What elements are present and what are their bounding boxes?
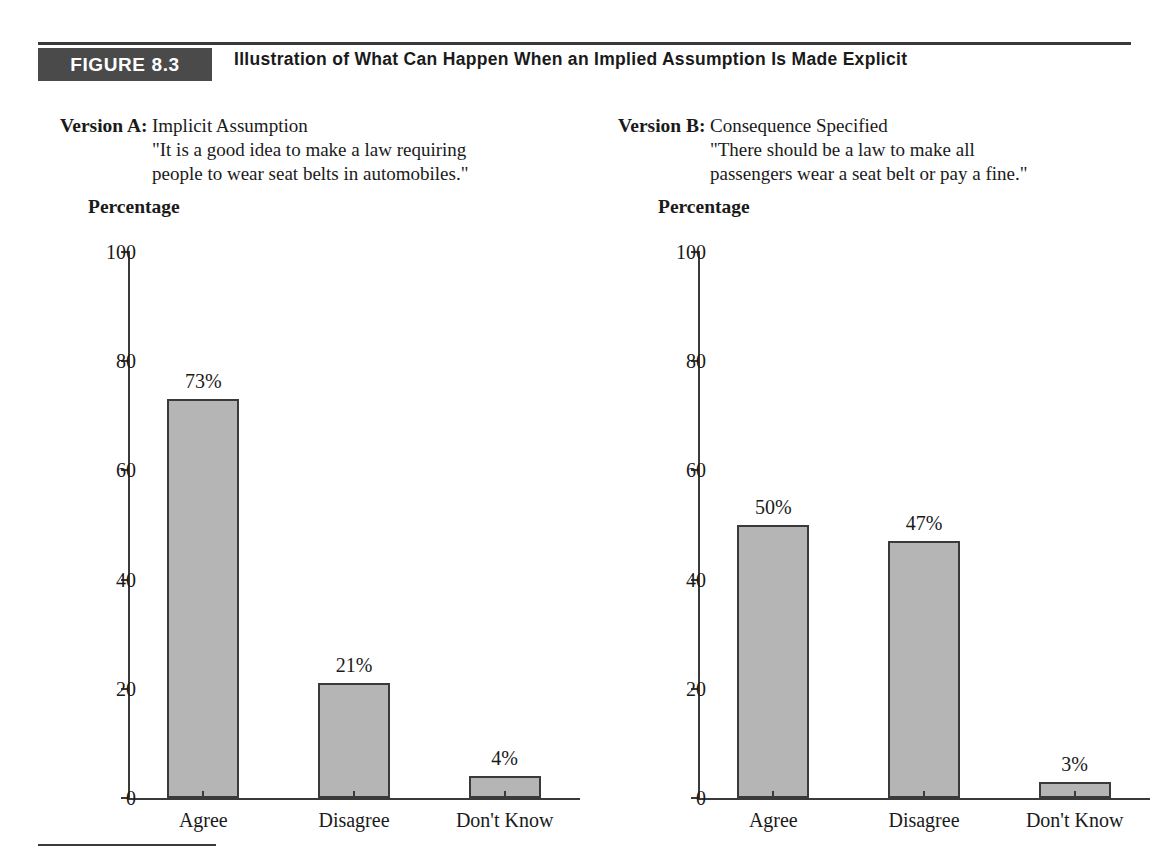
chart-b-bar-value-label: 3% [1025,754,1125,774]
chart-a-x-tick-mark [353,791,355,799]
version-a-heading-row: Version A:Implicit Assumption [60,114,560,138]
chart-b-y-tick-label: 80 [646,351,706,371]
chart-a-y-tick-label: 0 [76,788,136,808]
version-a-label: Version A: [60,114,152,138]
version-b-quote-line-1: "There should be a law to make all [710,138,1118,162]
chart-b-x-tick-mark [772,791,774,799]
chart-a-y-tick-label: 80 [76,351,136,371]
chart-b-y-tick-label: 100 [646,242,706,262]
chart-b-bar-value-label: 50% [723,497,823,517]
chart-b-y-tick-label: 20 [646,679,706,699]
footnote-divider [38,844,216,846]
chart-b-y-axis-title: Percentage [658,196,750,218]
chart-a-bar-value-label: 21% [304,655,404,675]
chart-a-bar [318,683,390,798]
chart-b-bar [737,525,809,798]
chart-b-bar [888,541,960,798]
chart-b-y-tick-label: 40 [646,570,706,590]
chart-a-y-tick-label: 60 [76,460,136,480]
chart-b-x-tick-label: Disagree [844,808,1004,832]
figure-number-badge: FIGURE 8.3 [38,48,212,81]
chart-a-x-tick-mark [202,791,204,799]
chart-b-x-tick-label: Don't Know [995,808,1155,832]
version-b-heading-row: Version B:Consequence Specified [618,114,1118,138]
version-b-description: Version B:Consequence Specified "There s… [618,114,1118,186]
header-divider [38,42,1131,45]
chart-a-x-tick-label: Agree [123,808,283,832]
version-b-quote-line-2: passengers wear a seat belt or pay a fin… [710,162,1118,186]
chart-b-bar-value-label: 47% [874,513,974,533]
chart-a-y-axis-title: Percentage [88,196,180,218]
chart-b-y-axis-line [698,252,700,800]
version-a-heading: Implicit Assumption [152,114,308,138]
chart-a-x-tick-label: Disagree [274,808,434,832]
chart-a-bar [167,399,239,798]
chart-b-x-tick-mark [923,791,925,799]
chart-b-plot-area: 02040608010050%Agree47%Disagree3%Don't K… [610,226,1110,826]
chart-a-y-tick-label: 40 [76,570,136,590]
chart-a-y-tick-label: 20 [76,679,136,699]
version-a-quote-line-1: "It is a good idea to make a law requiri… [152,138,560,162]
chart-b-y-tick-label: 0 [646,788,706,808]
version-a-description: Version A:Implicit Assumption "It is a g… [60,114,560,186]
version-b-heading: Consequence Specified [710,114,888,138]
chart-a-x-tick-label: Don't Know [425,808,585,832]
version-b-label: Version B: [618,114,710,138]
version-a-quote-line-2: people to wear seat belts in automobiles… [152,162,560,186]
chart-b-x-tick-mark [1074,791,1076,799]
chart-b-y-tick-label: 60 [646,460,706,480]
chart-a-bar-value-label: 4% [455,748,555,768]
chart-a-y-axis-line [128,252,130,800]
chart-a-bar-value-label: 73% [153,371,253,391]
chart-a-y-tick-label: 100 [76,242,136,262]
chart-a-plot-area: 02040608010073%Agree21%Disagree4%Don't K… [40,226,540,826]
chart-b-x-tick-label: Agree [693,808,853,832]
chart-a-x-tick-mark [504,791,506,799]
figure-title: Illustration of What Can Happen When an … [234,48,1114,70]
